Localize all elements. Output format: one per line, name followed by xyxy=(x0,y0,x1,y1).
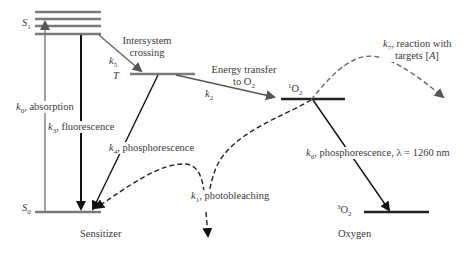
photobleaching-path-from-oxygen xyxy=(208,100,311,200)
s1-label: S1 xyxy=(21,17,32,29)
k6-phosphorescence-label: k6, phosphorescence, λ = 1260 nm xyxy=(305,147,451,159)
isc-label: Intersystemcrossing xyxy=(113,35,181,59)
k1-photobleaching-label: k1, photobleaching xyxy=(190,190,270,202)
singlet-oxygen-label: 1O2 xyxy=(287,83,304,95)
k0-absorption-label: k0, absorption xyxy=(15,101,75,113)
reaction-with-targets-arrow xyxy=(311,56,443,100)
t-label: T xyxy=(112,70,120,82)
triplet-oxygen-label: 3O2 xyxy=(336,204,353,216)
k2-label: k2 xyxy=(204,88,214,100)
k4-phosphorescence-label: k4, phosphorescence xyxy=(108,142,195,154)
k7-reaction-label: k7, reaction withtargets [A] xyxy=(382,38,453,62)
k3-fluorescence-label: k3, fluorescence xyxy=(47,121,115,133)
jablonski-diagram: S1 S0 T 1O2 3O2 Sensitizer Oxygen k0, ab… xyxy=(0,0,469,256)
energy-transfer-label: Energy transferto O2 xyxy=(202,64,286,88)
oxygen-label: Oxygen xyxy=(337,228,372,240)
sensitizer-label: Sensitizer xyxy=(79,228,122,240)
s0-label: S0 xyxy=(21,202,32,214)
k5-label: k5 xyxy=(108,55,118,67)
photobleaching-arrow-down xyxy=(206,212,208,236)
